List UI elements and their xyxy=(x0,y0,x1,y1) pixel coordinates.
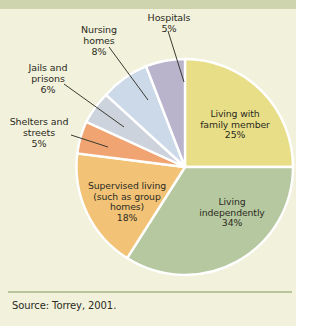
figure-pie-chart: Hospitals 5% Nursing homes 8% Jails and … xyxy=(0,0,311,326)
slice-label-living-independently: Living independently 34% xyxy=(186,197,278,229)
pie-slices xyxy=(76,59,293,275)
callout-label-hospitals: Hospitals 5% xyxy=(134,13,204,35)
source-note: Source: Torrey, 2001. xyxy=(12,300,116,311)
slice-label-supervised-living: Supervised living (such as group homes) … xyxy=(75,181,179,223)
slice-label-living-with-family-member: Living with family member 25% xyxy=(187,109,283,141)
callout-label-shelters-and-streets: Shelters and streets 5% xyxy=(3,117,75,149)
callout-label-jails-and-prisons: Jails and prisons 6% xyxy=(13,63,83,95)
top-band xyxy=(0,0,296,9)
pie-chart-area: Hospitals 5% Nursing homes 8% Jails and … xyxy=(0,9,296,286)
footer-divider xyxy=(8,291,292,293)
right-margin xyxy=(296,0,311,326)
callout-label-nursing-homes: Nursing homes 8% xyxy=(66,25,132,57)
